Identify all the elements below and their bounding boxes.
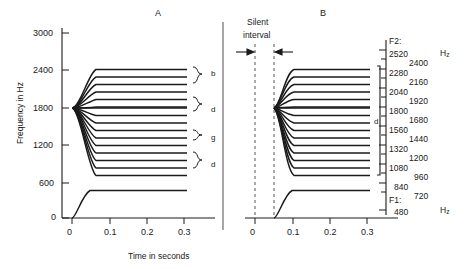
panel-b-f1-curve xyxy=(274,191,370,219)
brace-a-d2 xyxy=(193,152,202,168)
f2b-curve-720 xyxy=(274,108,370,176)
brace-a-b xyxy=(193,67,202,83)
panel-a-f1-curve xyxy=(72,191,187,219)
silent-interval-arrows xyxy=(236,49,293,55)
panel-b-f2-curves xyxy=(274,70,370,176)
f2b-curve-2280 xyxy=(274,85,370,109)
silent-arrow-right-head xyxy=(275,49,282,55)
f2-curve-1680 xyxy=(72,108,187,116)
silent-arrow-left-head xyxy=(247,49,254,55)
brace-a-g xyxy=(193,130,202,140)
panel-b-axes xyxy=(245,218,398,224)
brace-b-d xyxy=(377,66,380,175)
figure-svg xyxy=(0,0,471,269)
brace-a-d1 xyxy=(193,97,202,111)
panel-a-f2-curves xyxy=(72,70,187,176)
panel-a-braces xyxy=(193,67,202,168)
f2b-curve-1680 xyxy=(274,108,370,116)
formant-transition-figure: Frequency in Hz A B Silent interval Time… xyxy=(0,0,471,269)
